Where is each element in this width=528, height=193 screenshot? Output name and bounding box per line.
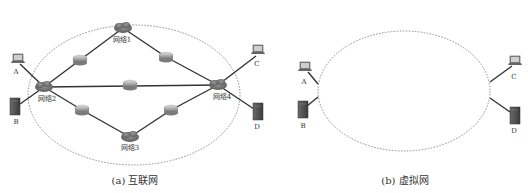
link-r4-net3 [82,110,130,137]
server-icon [298,101,308,118]
host-label: B [300,122,305,130]
link-d-virtual [490,98,510,112]
router-3 [123,80,137,90]
cloud-icon [35,81,53,92]
router-icon [73,55,87,65]
router-4 [75,105,89,115]
host-d-virtual: D [510,107,520,135]
host-label: A [300,78,307,86]
laptop-icon [508,56,522,65]
host-b-virtual: B [298,101,308,130]
virtual-network-ellipse [318,31,490,151]
figure-b-virtual-network: A B C D (b) 虚拟网 [298,31,522,186]
figure-a-internet: 网络1 网络2 网络3 网络4 [10,22,265,186]
router-2 [159,52,173,62]
network-cloud-3: 网络3 [121,131,139,152]
network-cloud-4: 网络4 [209,79,232,101]
host-label: C [511,73,516,81]
laptop-icon [11,54,25,63]
network-label: 网络1 [113,35,131,44]
router-icon [123,80,137,90]
host-label: C [254,60,259,68]
caption-virtual-network: (b) 虚拟网 [381,174,428,186]
server-icon [253,103,263,120]
router-1 [73,55,87,65]
host-a: A [11,54,25,76]
network-label: 网络3 [121,143,139,152]
link-r5-net4 [171,85,218,110]
laptop-icon [298,62,312,71]
link-b-virtual [307,97,318,106]
router-icon [159,52,173,62]
link-a-virtual [308,72,318,84]
host-b: B [10,98,20,126]
virtual-links [307,66,512,112]
router-icon [164,105,178,115]
host-c-virtual: C [508,56,522,81]
cloud-icon [114,22,132,33]
router-5 [164,105,178,115]
link-c-virtual [490,66,512,82]
cloud-icon [209,79,227,90]
network-label: 网络2 [38,94,56,103]
internet-virtual-network-diagram: 网络1 网络2 网络3 网络4 [0,0,528,193]
host-label: D [254,123,260,131]
laptop-icon [251,45,265,54]
router-icon [75,105,89,115]
host-d: D [253,103,263,131]
network-label: 网络4 [213,92,232,101]
host-label: B [13,118,18,126]
host-label: D [511,127,517,135]
host-c: C [251,45,265,68]
server-icon [510,107,520,124]
host-label: A [12,68,19,76]
server-icon [10,98,20,115]
caption-internet: (a) 互联网 [112,175,159,186]
cloud-icon [121,131,139,142]
link-r2-net4 [166,57,218,85]
